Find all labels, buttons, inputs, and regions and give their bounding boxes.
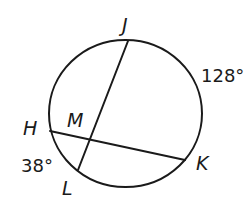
circle-chord-diagram: J M H K L 128° 38° — [0, 0, 246, 201]
point-label-m: M — [67, 109, 83, 131]
point-label-l: L — [62, 177, 73, 199]
chord-hk — [50, 131, 185, 160]
arc-measure-jk: 128° — [201, 65, 244, 86]
point-label-h: H — [23, 117, 37, 139]
chord-jl — [78, 41, 128, 170]
point-label-j: J — [118, 14, 128, 36]
arc-measure-hl: 38° — [21, 155, 53, 176]
point-label-k: K — [196, 152, 210, 174]
